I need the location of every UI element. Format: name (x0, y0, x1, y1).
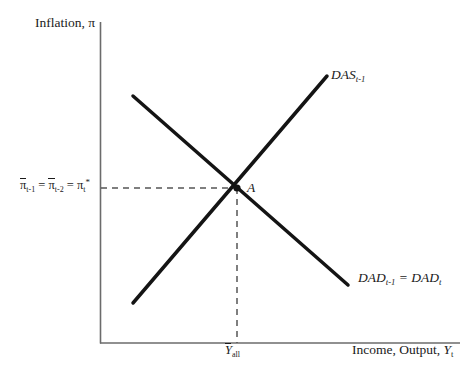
output-symbol: Y (225, 344, 232, 357)
pi-equals-1: = (35, 178, 48, 192)
pi-superscript-3: * (86, 177, 91, 187)
y-axis-title: Inflation, π (35, 16, 95, 30)
equilibrium-point-marker (233, 184, 240, 191)
equilibrium-point-label: A (247, 181, 255, 195)
das-label-subscript: t-1 (356, 74, 366, 84)
pi-subscript-1: t-1 (26, 185, 35, 194)
das-curve-label: DASt-1 (331, 68, 365, 82)
output-subscript: all (232, 350, 240, 359)
dad-curve (133, 96, 348, 285)
natural-output-label: Yall (225, 344, 240, 357)
pi-symbol-2: π (49, 179, 55, 192)
pi-equals-2: = (64, 178, 77, 192)
dad-label-subscript-1: t-1 (386, 277, 396, 287)
x-axis-title: Income, Output, Yt (352, 343, 453, 357)
dad-label-equals: = (395, 270, 411, 285)
dad-label-main-2: DAD (411, 270, 439, 285)
dad-label-main-1: DAD (358, 270, 386, 285)
dad-das-diagram: Inflation, π Income, Output, Yt DASt-1 D… (0, 0, 472, 379)
x-axis-title-text: Income, Output, (352, 342, 443, 357)
das-curve (133, 76, 327, 303)
dad-curve-label: DADt-1 = DADt (358, 271, 441, 285)
inflation-equilibrium-label: πt-1 = πt-2 = πt* (20, 179, 90, 192)
das-label-main: DAS (331, 67, 356, 82)
x-axis-title-symbol: Y (443, 342, 451, 357)
pi-subscript-2: t-2 (55, 185, 64, 194)
